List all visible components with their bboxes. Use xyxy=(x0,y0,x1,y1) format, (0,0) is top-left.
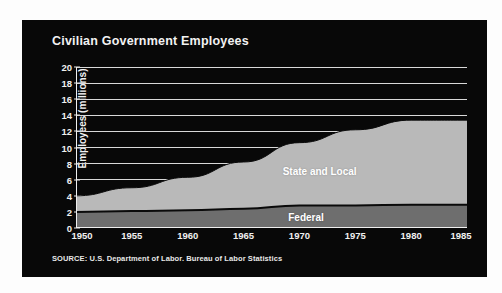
x-tick-label: 1955 xyxy=(121,230,142,241)
source-note: SOURCE: U.S. Department of Labor. Bureau… xyxy=(52,254,282,263)
page-canvas: Civilian Government Employees Employees … xyxy=(0,0,502,293)
y-tick-label: 8 xyxy=(52,158,72,169)
x-axis-ticks: 19501955196019651970197519801985 xyxy=(76,230,467,246)
x-tick-label: 1975 xyxy=(345,230,366,241)
series-label-state-and-local: State and Local xyxy=(283,166,357,177)
y-tick-label: 2 xyxy=(52,206,72,217)
x-tick-label: 1960 xyxy=(177,230,198,241)
x-tick-label: 1965 xyxy=(233,230,254,241)
stacked-area-plot xyxy=(76,67,467,228)
y-tick-label: 0 xyxy=(52,223,72,234)
y-tick-label: 6 xyxy=(52,174,72,185)
y-tick-label: 16 xyxy=(52,94,72,105)
y-tick-label: 10 xyxy=(52,142,72,153)
area-state-and-local xyxy=(76,120,467,212)
x-tick-label: 1970 xyxy=(289,230,310,241)
y-axis-ticks: 02468101214161820 xyxy=(50,67,72,228)
y-tick-label: 12 xyxy=(52,126,72,137)
y-tick-label: 4 xyxy=(52,190,72,201)
x-tick-label: 1950 xyxy=(71,230,92,241)
y-tick-label: 20 xyxy=(52,62,72,73)
plot-area: State and Local Federal xyxy=(76,67,467,228)
y-tick-label: 18 xyxy=(52,78,72,89)
x-tick-label: 1980 xyxy=(401,230,422,241)
x-tick-label: 1985 xyxy=(450,230,471,241)
y-tick-label: 14 xyxy=(52,110,72,121)
series-label-federal: Federal xyxy=(288,212,324,223)
chart-panel: Civilian Government Employees Employees … xyxy=(22,20,487,277)
